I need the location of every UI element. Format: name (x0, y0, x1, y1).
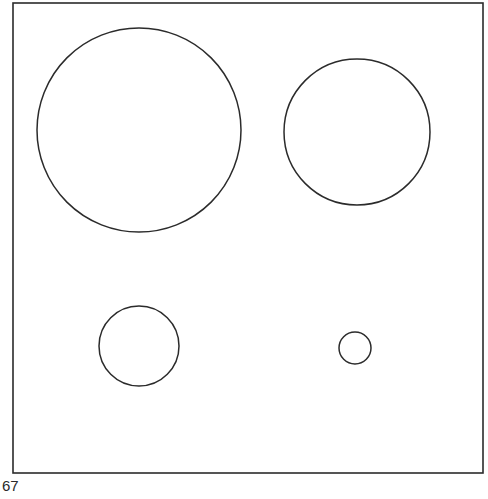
tiny-circle (339, 332, 371, 364)
small-circle (99, 306, 179, 386)
circles-group (37, 28, 430, 386)
circles-figure (0, 0, 488, 499)
large-circle (37, 28, 241, 232)
medium-circle (284, 59, 430, 205)
figure-number-label: 67 (2, 477, 19, 494)
square-frame (13, 3, 483, 473)
